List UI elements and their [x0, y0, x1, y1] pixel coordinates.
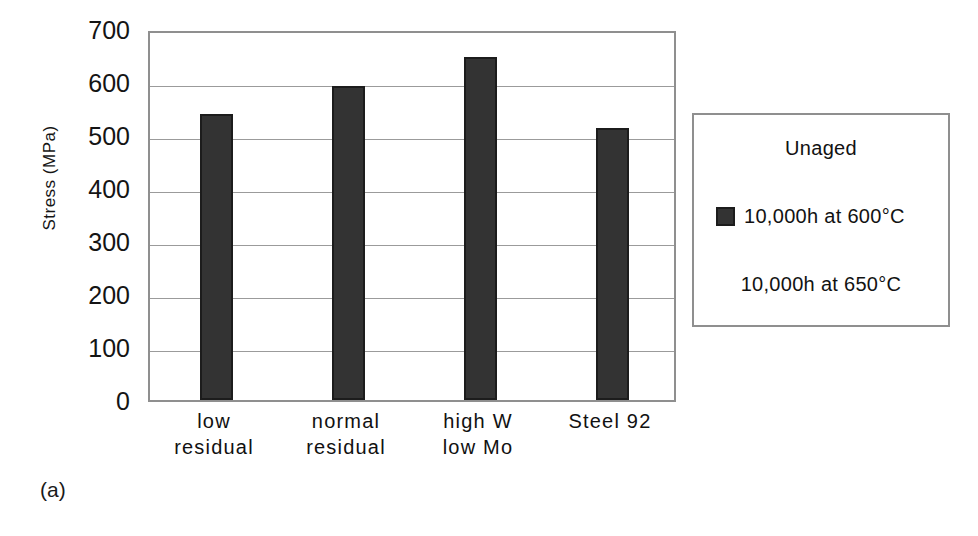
y-axis-tick-label: 500 [52, 124, 130, 149]
bar [200, 114, 233, 400]
legend-item-label: 10,000h at 650°C [741, 273, 902, 296]
x-tick-line-1: Steel 92 [569, 410, 652, 432]
bar [332, 86, 365, 400]
x-axis-tick-label: normalresidual [280, 408, 412, 460]
legend-item-label: Unaged [785, 137, 857, 160]
y-axis-tick-label: 700 [52, 18, 130, 43]
bar-chart-figure: Stress (MPa) 7006005004003002001000 lowr… [0, 0, 978, 536]
y-axis-tick-label: 100 [52, 336, 130, 361]
y-axis-tick-label: 400 [52, 177, 130, 202]
bar [596, 128, 629, 400]
bars-group [150, 33, 674, 400]
legend-item-label: 10,000h at 600°C [744, 205, 905, 228]
bar [464, 57, 497, 400]
y-axis-tick-label: 600 [52, 71, 130, 96]
plot-area [148, 31, 676, 402]
y-axis-tick-label: 300 [52, 230, 130, 255]
legend: Unaged10,000h at 600°C10,000h at 650°C [692, 113, 950, 327]
x-tick-line-2: residual [280, 434, 412, 460]
x-tick-line-1: low [197, 410, 231, 432]
x-axis-tick-label: lowresidual [148, 408, 280, 460]
x-tick-line-1: high W [443, 410, 512, 432]
x-tick-line-1: normal [312, 410, 380, 432]
legend-swatch-icon [716, 207, 735, 226]
y-axis-tick-labels: 7006005004003002001000 [52, 31, 138, 402]
x-axis-tick-labels: lowresidualnormalresidualhigh Wlow MoSte… [148, 408, 676, 488]
x-axis-tick-label: Steel 92 [544, 408, 676, 434]
legend-item[interactable]: 10,000h at 650°C [694, 269, 948, 299]
x-tick-line-2: residual [148, 434, 280, 460]
legend-item[interactable]: 10,000h at 600°C [694, 201, 948, 231]
y-axis-tick-label: 0 [52, 389, 130, 414]
legend-item[interactable]: Unaged [694, 133, 948, 163]
y-axis-tick-label: 200 [52, 283, 130, 308]
x-axis-tick-label: high Wlow Mo [412, 408, 544, 460]
panel-label: (a) [40, 478, 66, 502]
x-tick-line-2: low Mo [412, 434, 544, 460]
